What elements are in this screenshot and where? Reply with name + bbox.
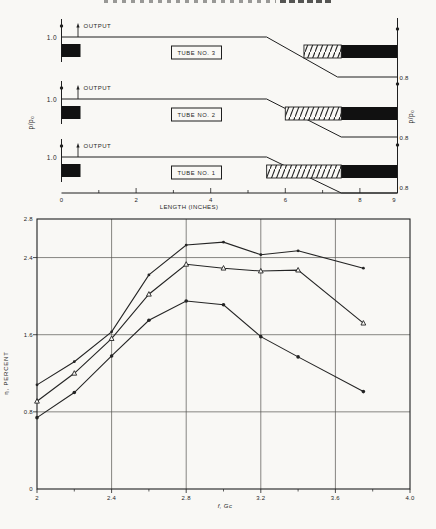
efficiency-chart-svg: 00.81.62.42.822.42.83.23.64.0 [0,215,436,529]
x-axis-tick-label: 2.4 [107,495,117,501]
tube-3-collector-block [341,45,397,58]
series-tube-no-2-marker [221,266,226,271]
tube-2-output-label: OUTPUT [84,85,112,91]
tube-1-collector-block [341,165,397,178]
tube-diagram: 1.0OUTPUTTUBE NO. 30.81.0OUTPUTTUBE NO. … [0,0,436,215]
tube-2-axis-dot [60,86,63,89]
series-tube-no-3-marker [36,383,39,386]
tube-1-start-pressure-label: 1.0 [47,154,57,161]
tube-2-input-block [62,106,81,119]
tube-diagram-svg: 1.0OUTPUTTUBE NO. 30.81.0OUTPUTTUBE NO. … [0,0,436,215]
series-tube-no-1-marker [296,355,300,359]
length-axis-tick-label: 2 [134,197,138,203]
pressure-axis-label-right: p/p₀ [407,102,414,132]
right-axis-dot [396,82,399,85]
series-tube-no-3-marker [362,267,365,270]
tube-3-output-label: OUTPUT [84,23,112,29]
x-axis-tick-label: 4.0 [405,495,415,501]
series-tube-no-3-marker [185,244,188,247]
x-axis-tick-label: 2 [35,495,39,501]
tube-1-hatched-attenuator [267,165,342,178]
series-tube-no-1-line [37,301,363,418]
right-axis-dot [396,27,399,30]
tube-2-end-pressure-label: 0.8 [400,135,410,141]
series-tube-no-3-line [37,242,363,385]
length-axis-tick-label: 0 [60,197,64,203]
y-axis-tick-label: 2.8 [24,216,34,222]
series-tube-no-3-marker [110,330,113,333]
tube-1-end-pressure-label: 0.8 [400,185,410,191]
scanned-paper-figure: 1.0OUTPUTTUBE NO. 30.81.0OUTPUTTUBE NO. … [0,0,436,529]
series-tube-no-3-marker [297,249,300,252]
length-axis-label: LENGTH (INCHES) [144,204,234,210]
length-axis-tick-label: 4 [209,197,213,203]
series-tube-no-1-marker [35,416,39,420]
tube-2-hatched-attenuator [285,107,341,120]
tube-2-collector-block [341,107,397,120]
series-tube-no-3-marker [148,274,151,277]
length-axis-tick-label: 6 [284,197,288,203]
tube-3-hatched-attenuator [304,45,341,58]
efficiency-chart: 00.81.62.42.822.42.83.23.64.0 η, PERCENT… [0,215,436,529]
x-axis-label: f, Gc [185,503,265,509]
series-tube-no-1-marker [110,354,114,358]
series-tube-no-1-marker [73,391,77,395]
series-tube-no-2-marker [184,262,189,267]
y-axis-label: η, PERCENT [3,333,9,413]
series-tube-no-3-marker [259,253,262,256]
tube-1-label: TUBE NO. 1 [177,170,215,176]
tube-3-axis-dot [60,24,63,27]
x-axis-tick-label: 3.6 [331,495,341,501]
plot-border [37,219,410,489]
tube-1-input-block [62,164,81,177]
length-axis-tick-label: 8 [358,197,362,203]
series-tube-no-1-marker [259,335,263,339]
tube-1-output-label: OUTPUT [84,143,112,149]
series-tube-no-1-marker [184,299,188,303]
x-axis-tick-label: 3.2 [256,495,266,501]
tube-2-output-arrowhead [76,85,79,90]
x-axis-tick-label: 2.8 [182,495,192,501]
series-tube-no-1-marker [222,303,226,307]
series-tube-no-2-marker [296,268,301,273]
series-tube-no-1-marker [147,318,151,322]
tube-2-label: TUBE NO. 2 [177,112,215,118]
tube-3-input-block [62,44,81,57]
series-tube-no-3-marker [222,241,225,244]
tube-2-start-pressure-label: 1.0 [47,96,57,103]
y-axis-tick-label: 2.4 [24,255,34,261]
tube-1-output-arrowhead [76,143,79,148]
right-axis-dot [396,143,399,146]
y-axis-tick-label: 0 [29,486,33,492]
tube-3-label: TUBE NO. 3 [177,50,215,56]
series-tube-no-1-marker [362,390,366,394]
tube-3-start-pressure-label: 1.0 [47,34,57,41]
length-axis-tick-label: 9 [392,197,396,203]
tube-1-axis-dot [60,144,63,147]
y-axis-tick-label: 0.8 [24,409,34,415]
tube-3-end-pressure-label: 0.8 [400,75,410,81]
series-tube-no-2-marker [258,268,263,273]
tube-3-output-arrowhead [76,23,79,28]
series-tube-no-3-marker [73,360,76,363]
y-axis-tick-label: 1.6 [24,332,34,338]
pressure-axis-label-left: p/p₀ [27,108,34,138]
